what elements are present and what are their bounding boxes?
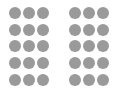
- dot-icon: [37, 7, 49, 19]
- dot-icon: [83, 40, 95, 52]
- dot-icon: [23, 40, 35, 52]
- dot-icon: [69, 40, 81, 52]
- dot-icon: [83, 24, 95, 36]
- dot-icon: [97, 24, 109, 36]
- right-dot-grid: [69, 7, 109, 86]
- dot-icon: [69, 7, 81, 19]
- dot-icon: [69, 74, 81, 86]
- dot-icon: [97, 7, 109, 19]
- dot-icon: [23, 74, 35, 86]
- dot-icon: [97, 40, 109, 52]
- dot-icon: [97, 57, 109, 69]
- dot-icon: [69, 57, 81, 69]
- dot-icon: [9, 74, 21, 86]
- dot-icon: [97, 74, 109, 86]
- dot-icon: [9, 24, 21, 36]
- dot-icon: [37, 40, 49, 52]
- dot-icon: [23, 24, 35, 36]
- dot-icon: [9, 40, 21, 52]
- dot-icon: [37, 24, 49, 36]
- dot-icon: [37, 74, 49, 86]
- dot-icon: [9, 7, 21, 19]
- left-dot-grid: [9, 7, 49, 86]
- dot-icon: [83, 7, 95, 19]
- dot-icon: [37, 57, 49, 69]
- dot-icon: [23, 7, 35, 19]
- dot-icon: [83, 57, 95, 69]
- dot-icon: [69, 24, 81, 36]
- dot-icon: [83, 74, 95, 86]
- dot-icon: [9, 57, 21, 69]
- dot-icon: [23, 57, 35, 69]
